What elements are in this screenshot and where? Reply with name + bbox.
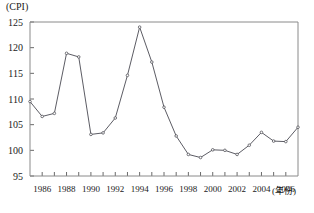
svg-text:2004: 2004 [252,184,271,194]
svg-text:100: 100 [8,145,23,156]
chart-plot-area: 95100105110115120125 1986198819901992199… [0,0,314,213]
svg-text:1986: 1986 [33,184,52,194]
y-axis-tick-labels: 95100105110115120125 [8,17,23,182]
svg-text:1998: 1998 [179,184,198,194]
svg-text:1992: 1992 [106,184,124,194]
cpi-series-line [30,27,298,157]
svg-text:1990: 1990 [82,184,101,194]
y-axis-tick-marks [30,22,34,176]
cpi-line-chart-figure: (CPI) (年份) 95100105110115120125 19861988… [0,0,314,213]
svg-text:1988: 1988 [58,184,77,194]
svg-text:1994: 1994 [131,184,150,194]
cpi-series-markers [29,26,300,159]
svg-text:2000: 2000 [204,184,223,194]
svg-text:115: 115 [8,68,23,79]
svg-text:1996: 1996 [155,184,174,194]
svg-text:120: 120 [8,42,23,53]
svg-text:110: 110 [8,94,23,105]
svg-text:125: 125 [8,17,23,28]
svg-text:2002: 2002 [228,184,246,194]
svg-text:2006: 2006 [277,184,296,194]
x-axis-tick-labels: 1986198819901992199419961998200020022004… [33,184,295,194]
svg-text:95: 95 [13,171,23,182]
svg-text:105: 105 [8,119,23,130]
x-axis-tick-marks [42,172,286,176]
chart-frame [30,22,298,176]
